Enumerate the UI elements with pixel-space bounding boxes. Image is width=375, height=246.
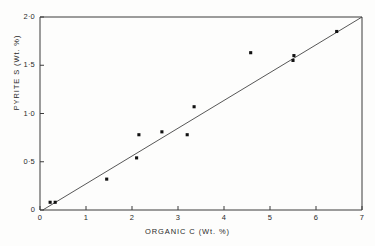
data-point-marker	[137, 133, 140, 136]
data-point-marker	[249, 51, 252, 54]
data-point-series	[49, 30, 339, 204]
x-axis-ticks	[40, 206, 362, 210]
data-point-marker	[54, 201, 57, 204]
data-point-marker	[160, 130, 163, 133]
data-point-marker	[105, 178, 108, 181]
data-point-marker	[186, 133, 189, 136]
scatter-plot-figure: 0123456700·51·01·52·0 ORGANIC C (Wt. %) …	[0, 0, 375, 246]
x-tick-label: 6	[314, 214, 318, 222]
x-tick-label: 7	[360, 214, 364, 222]
x-tick-label: 1	[84, 214, 88, 222]
x-tick-label: 3	[176, 214, 180, 222]
plot-canvas	[0, 0, 375, 246]
data-point-marker	[292, 54, 295, 57]
y-tick-label: 0	[12, 206, 35, 214]
regression-line	[43, 17, 362, 210]
x-tick-label: 2	[130, 214, 134, 222]
x-axis-title: ORGANIC C (Wt. %)	[0, 227, 375, 236]
y-axis-title: PYRITE S (Wt. %)	[12, 13, 21, 133]
x-tick-label: 4	[222, 214, 226, 222]
data-point-marker	[193, 105, 196, 108]
x-tick-label: 5	[268, 214, 272, 222]
data-point-marker	[135, 156, 138, 159]
data-point-marker	[335, 30, 338, 33]
x-tick-label: 0	[38, 214, 42, 222]
y-tick-label: 0·5	[12, 158, 35, 166]
regression-line-path	[43, 17, 362, 210]
y-axis-ticks	[40, 17, 44, 210]
data-point-marker	[49, 201, 52, 204]
data-point-marker	[291, 59, 294, 62]
